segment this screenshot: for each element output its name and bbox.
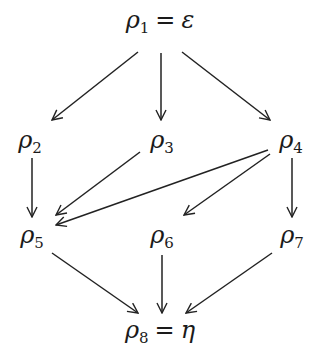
subscript: 8 [139, 329, 149, 347]
node-rho1: ρ1=ε [126, 8, 195, 36]
eta-symbol: η [181, 316, 195, 344]
rho-symbol: ρ [125, 316, 139, 344]
node-rho7: ρ7 [280, 223, 304, 251]
rho-symbol: ρ [279, 126, 293, 154]
subscript: 5 [34, 234, 44, 252]
node-rho4: ρ4 [279, 128, 303, 156]
arrow-rho5-to-rho8 [52, 253, 138, 313]
node-rho6: ρ6 [150, 223, 174, 251]
arrow-rho7-to-rho8 [186, 253, 272, 313]
subscript: 1 [140, 19, 150, 37]
subscript: 2 [32, 139, 42, 157]
node-rho8: ρ8=η [125, 318, 195, 346]
node-rho5: ρ5 [20, 223, 44, 251]
arrow-rho1-to-rho2 [52, 52, 138, 120]
subscript: 6 [164, 234, 174, 252]
rho-symbol: ρ [18, 126, 32, 154]
lattice-diagram: ρ1=ε ρ2 ρ3 ρ4 ρ5 ρ6 ρ7 ρ8=η [0, 0, 318, 363]
rho-symbol: ρ [20, 221, 34, 249]
node-rho2: ρ2 [18, 128, 42, 156]
arrow-rho1-to-rho4 [182, 52, 270, 120]
rho-symbol: ρ [150, 126, 164, 154]
subscript: 7 [294, 234, 304, 252]
epsilon-symbol: ε [181, 6, 194, 34]
rho-symbol: ρ [126, 6, 140, 34]
subscript: 4 [293, 139, 303, 157]
rho-symbol: ρ [280, 221, 294, 249]
arrow-rho4-to-rho5 [56, 150, 268, 225]
arrow-rho4-to-rho6 [184, 154, 270, 215]
equals-sign: = [155, 6, 175, 34]
subscript: 3 [164, 139, 174, 157]
edges-layer [0, 0, 318, 363]
rho-symbol: ρ [150, 221, 164, 249]
equals-sign: = [155, 316, 175, 344]
arrow-rho3-to-rho5 [56, 152, 140, 215]
node-rho3: ρ3 [150, 128, 174, 156]
